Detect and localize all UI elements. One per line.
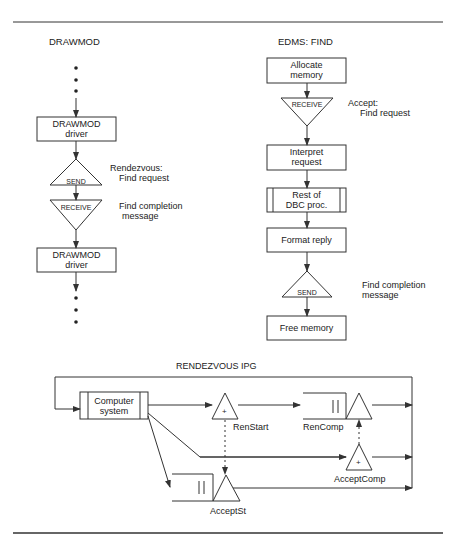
box-line: driver (37, 260, 116, 270)
edms-title: EDMS: FIND (278, 37, 333, 47)
format-reply-box: Format reply (267, 235, 346, 245)
acceptst-label: AcceptSt (210, 506, 246, 516)
send-label: SEND (50, 177, 102, 187)
note-line: message (119, 211, 183, 221)
rencomp-label: RenComp (303, 422, 344, 432)
box-line: memory (267, 70, 346, 80)
box-line: DBC proc. (267, 200, 346, 210)
note-line: Find completion (362, 280, 426, 290)
receive-label: RECEIVE (50, 203, 102, 213)
completion-note: Find completion message (362, 280, 426, 300)
note-line: message (362, 290, 426, 300)
free-memory-box: Free memory (267, 323, 346, 333)
box-line: request (267, 157, 346, 167)
receive-note: Find completion message (119, 201, 183, 221)
drawmod-driver-box-2: DRAWMOD driver (37, 250, 116, 270)
box-line: DRAWMOD (37, 119, 116, 129)
allocate-memory-box: Allocate memory (267, 60, 346, 80)
receive-label: RECEIVE (281, 100, 333, 110)
box-line: driver (37, 129, 116, 139)
note-line: Find completion (119, 201, 183, 211)
box-line: Interpret (267, 147, 346, 157)
note-line: Rendezvous: (110, 163, 169, 173)
ipg-title: RENDEZVOUS IPG (176, 361, 257, 371)
diagram-canvas (0, 0, 457, 550)
send-label: SEND (282, 288, 332, 298)
interpret-request-box: Interpret request (267, 147, 346, 167)
box-line: Computer (88, 396, 140, 406)
box-line: Rest of (267, 190, 346, 200)
send-note: Rendezvous: Find request (110, 163, 169, 183)
note-line: Find request (110, 173, 169, 183)
note-line: Accept: (348, 98, 410, 108)
drawmod-flow (37, 66, 116, 324)
drawmod-title: DRAWMOD (49, 37, 100, 47)
box-line: system (88, 406, 140, 416)
box-line: Allocate (267, 60, 346, 70)
acceptcomp-label: AcceptComp (334, 474, 386, 484)
plus-mark: + (222, 407, 227, 417)
renstart-label: RenStart (233, 422, 269, 432)
plus-mark: + (356, 458, 361, 468)
rest-of-dbc-box: Rest of DBC proc. (267, 190, 346, 210)
box-line: DRAWMOD (37, 250, 116, 260)
accept-note: Accept: Find request (348, 98, 410, 118)
computer-system-box: Computer system (88, 396, 140, 416)
note-line: Find request (348, 108, 410, 118)
drawmod-driver-box-1: DRAWMOD driver (37, 119, 116, 139)
